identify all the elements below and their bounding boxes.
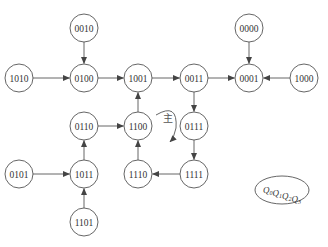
state-label: 0101 [10,170,29,180]
state-node-0110: 0110 [70,112,98,140]
state-label: 0100 [75,74,94,84]
state-node-0101: 0101 [5,160,33,188]
state-label: 1010 [10,74,29,84]
state-node-0111: 0111 [180,112,208,140]
state-label: 0110 [75,122,94,132]
state-node-1000: 1000 [290,64,318,92]
state-diagram-canvas: 主 00100000101001001001001100011000011011… [0,0,328,247]
state-node-1101: 1101 [70,208,98,236]
state-label: 1011 [75,170,94,180]
state-node-1001: 1001 [124,64,152,92]
state-node-1011: 1011 [70,160,98,188]
state-node-1111: 1111 [180,160,208,188]
state-label: 1001 [129,74,148,84]
state-label: 0011 [185,74,204,84]
state-node-1010: 1010 [5,64,33,92]
state-node-0000: 0000 [235,14,263,42]
state-label: 1000 [295,74,314,84]
state-node-1100: 1100 [124,112,152,140]
state-label: 0000 [240,24,259,34]
state-label: 0001 [240,74,259,84]
state-node-0100: 0100 [70,64,98,92]
state-node-0001: 0001 [235,64,263,92]
state-label: 1110 [129,170,148,180]
state-label: 0010 [75,24,94,34]
state-label: 1101 [75,218,94,228]
state-label: 0111 [185,122,204,132]
state-node-0011: 0011 [180,64,208,92]
state-node-0010: 0010 [70,14,98,42]
state-node-1110: 1110 [124,160,152,188]
state-label: 1100 [129,122,148,132]
state-legend: Q0Q1Q2Q3 [255,176,309,205]
main-loop-label: 主 [163,113,173,124]
figure-caption [80,238,250,242]
state-label: 1111 [185,170,203,180]
